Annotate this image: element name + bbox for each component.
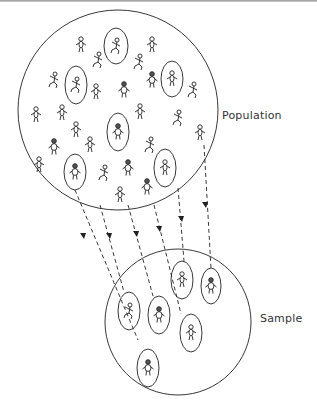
sample-person-4 [148, 296, 170, 334]
population-selected [64, 28, 183, 190]
arrow-2 [100, 205, 124, 292]
arrow-5 [178, 188, 184, 261]
sample-person-3 [118, 292, 140, 330]
sample-person-5 [180, 314, 202, 352]
arrowhead-icon [106, 233, 112, 239]
selected-person-2 [65, 66, 87, 104]
sample-person-6 [137, 349, 159, 387]
population-circle [18, 10, 218, 210]
sample-selected [118, 261, 221, 387]
arrow-3 [128, 205, 153, 296]
selected-person-4 [107, 113, 129, 151]
arrow-4 [154, 205, 181, 314]
arrowhead-icon [80, 233, 86, 239]
selected-person-1 [104, 28, 128, 64]
arrowhead-icon [133, 231, 139, 237]
sampling-diagram [0, 0, 317, 419]
selected-person-5 [154, 149, 176, 187]
arrowheads [80, 202, 208, 239]
sampling-arrows [75, 145, 211, 340]
population-figures [31, 37, 205, 202]
arrowhead-icon [202, 202, 208, 208]
selected-person-6 [64, 154, 86, 190]
arrowhead-icon [156, 226, 162, 232]
arrowhead-icon [178, 216, 184, 222]
sample-label: Sample [260, 312, 302, 325]
population-label: Population [222, 109, 282, 122]
selected-person-3 [161, 61, 183, 97]
arrow-1 [75, 190, 138, 340]
sample-circle [105, 249, 251, 395]
sample-person-2 [201, 268, 221, 304]
sample-person-1 [171, 261, 193, 299]
